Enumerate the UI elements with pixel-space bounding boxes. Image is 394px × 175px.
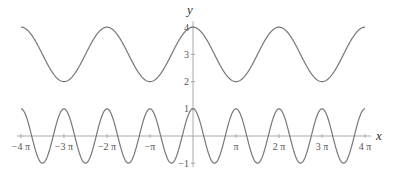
tick-labels: −4 π−3 π−2 π−ππ2 π3 π4 π−11234 <box>12 22 371 169</box>
y-tick-label: −1 <box>178 158 189 169</box>
x-tick-label: 3 π <box>316 141 329 152</box>
x-tick-label: −4 π <box>12 141 30 152</box>
y-tick-label: 1 <box>184 103 189 114</box>
y-tick-label: 4 <box>184 22 189 33</box>
x-axis-title: x <box>375 128 382 143</box>
x-tick-label: −2 π <box>98 141 116 152</box>
x-tick-label: −π <box>145 141 156 152</box>
x-tick-label: 2 π <box>273 141 286 152</box>
x-tick-label: π <box>233 141 238 152</box>
y-tick-label: 2 <box>184 76 189 87</box>
y-tick-label: 3 <box>184 49 189 60</box>
y-axis-title: y <box>185 2 193 17</box>
x-tick-label: −3 π <box>55 141 73 152</box>
function-plot: −4 π−3 π−2 π−ππ2 π3 π4 π−11234 x y <box>0 0 394 175</box>
x-tick-label: 4 π <box>359 141 372 152</box>
